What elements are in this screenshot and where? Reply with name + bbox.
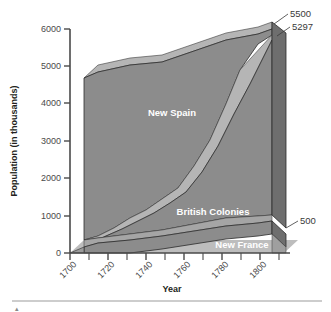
y-tick-label-3000: 3000 xyxy=(41,136,61,146)
x-tick-label-1780: 1780 xyxy=(209,259,230,280)
right-side-face-upper xyxy=(272,22,286,228)
series-label-british-colonies: British Colonies xyxy=(177,206,250,217)
x-tick-label-1720: 1720 xyxy=(95,259,116,280)
annotation-label-5297: 5297 xyxy=(292,21,313,32)
annotation-label-500: 500 xyxy=(300,215,316,226)
y-tick-label-1000: 1000 xyxy=(41,211,61,221)
y-tick-label-6000: 6000 xyxy=(41,24,61,34)
x-tick-label-1740: 1740 xyxy=(133,259,154,280)
x-tick-label-1700: 1700 xyxy=(57,259,78,280)
annotation-label-5500: 5500 xyxy=(290,8,311,19)
x-tick-label-1760: 1760 xyxy=(171,259,192,280)
chart-container: 6000 5000 4000 3000 2000 1000 0 Populati… xyxy=(0,0,331,312)
footer-caret-icon: ▴ xyxy=(15,305,19,312)
population-area-chart: 6000 5000 4000 3000 2000 1000 0 Populati… xyxy=(0,0,331,312)
y-tick-label-2000: 2000 xyxy=(41,173,61,183)
x-axis-title: Year xyxy=(162,284,182,294)
y-axis: 6000 5000 4000 3000 2000 1000 0 Populati… xyxy=(9,24,70,258)
series-label-new-spain: New Spain xyxy=(148,107,196,118)
series-label-new-france: New France xyxy=(215,239,268,250)
y-tick-label-4000: 4000 xyxy=(41,98,61,108)
chart-right-side-faces xyxy=(272,22,286,253)
x-tick-label-1800: 1800 xyxy=(247,259,268,280)
x-axis: 1700 1720 1740 1760 1780 1800 Year xyxy=(57,253,290,294)
annotation-new-france-end: 500 xyxy=(286,215,316,228)
y-axis-title: Population (in thousands) xyxy=(9,86,19,197)
y-tick-label-5000: 5000 xyxy=(41,61,61,71)
y-tick-label-0: 0 xyxy=(56,248,61,258)
